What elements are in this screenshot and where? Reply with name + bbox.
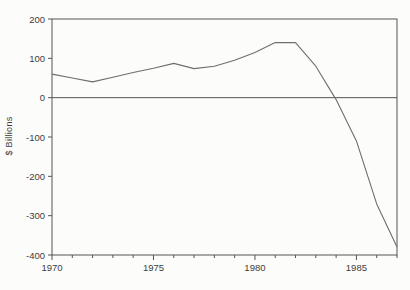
- plot-border: [52, 19, 397, 255]
- line-plot: 2001000-100-200-300-4001970197519801985: [0, 0, 410, 290]
- y-tick-label: -400: [26, 250, 45, 261]
- x-tick-label: 1970: [41, 262, 62, 273]
- chart: $ Billions 2001000-100-200-300-400197019…: [0, 0, 410, 290]
- y-tick-label: 200: [29, 14, 45, 25]
- data-line: [52, 43, 397, 248]
- x-tick-label: 1980: [244, 262, 265, 273]
- y-tick-label: 100: [29, 53, 45, 64]
- y-tick-label: -200: [26, 171, 45, 182]
- x-tick-label: 1985: [346, 262, 367, 273]
- y-tick-label: 0: [40, 92, 45, 103]
- y-axis-label: $ Billions: [4, 109, 14, 163]
- y-tick-label: -100: [26, 132, 45, 143]
- y-tick-label: -300: [26, 210, 45, 221]
- x-tick-label: 1975: [143, 262, 164, 273]
